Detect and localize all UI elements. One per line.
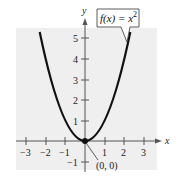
y-axis-label: y <box>81 5 87 16</box>
x-tick-label: 1 <box>102 147 107 158</box>
vertex-label: (0, 0) <box>96 160 118 172</box>
parabola-chart: x y −3 −2 −1 1 2 3 5 4 3 2 1 −1 (0, 0) f… <box>0 0 177 176</box>
function-label-text: f(x) = x <box>100 12 133 25</box>
x-tick-label: 2 <box>121 147 126 158</box>
y-tick-label: 2 <box>73 95 78 106</box>
function-label: f(x) = x2 <box>100 10 137 25</box>
y-tick-label: 1 <box>73 116 78 127</box>
x-axis-arrow-icon <box>155 139 162 144</box>
x-tick-label: −3 <box>20 147 31 158</box>
x-tick-label: 3 <box>141 147 146 158</box>
y-tick-label: 4 <box>73 54 78 65</box>
plot-background <box>16 28 157 170</box>
vertex-point <box>82 138 88 144</box>
x-tick-label: −2 <box>40 147 51 158</box>
y-tick-label: 3 <box>73 75 78 86</box>
y-tick-label: −1 <box>67 157 78 168</box>
y-tick-label: 5 <box>73 33 78 44</box>
y-axis-arrow-icon <box>83 18 88 25</box>
x-axis-label: x <box>164 135 170 146</box>
function-label-exponent: 2 <box>133 10 137 19</box>
